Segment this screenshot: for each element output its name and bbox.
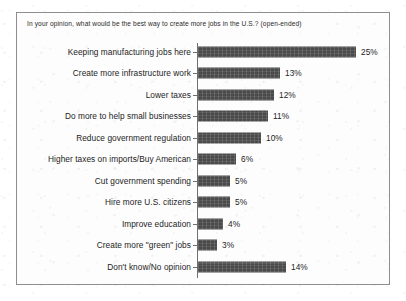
bar xyxy=(198,261,286,272)
bar-category-label: Don't know/No opinion xyxy=(107,262,191,272)
bar-category-label: Hire more U.S. citizens xyxy=(105,197,191,207)
bar-category-label: Create more "green" jobs xyxy=(97,240,191,250)
table-row: Reduce government regulation 10% xyxy=(17,127,391,149)
table-row: Lower taxes 12% xyxy=(17,84,391,106)
chart-frame: In your opinion, what would be the best … xyxy=(16,12,390,285)
table-row: Do more to help small businesses 11% xyxy=(17,106,391,128)
table-row: Higher taxes on imports/Buy American 6% xyxy=(17,149,391,171)
bar xyxy=(198,46,356,57)
bar xyxy=(198,132,261,143)
bar xyxy=(198,240,217,251)
bar xyxy=(198,89,274,100)
bar-value-label: 10% xyxy=(266,133,283,143)
bar-category-label: Lower taxes xyxy=(146,90,191,100)
bar xyxy=(198,218,223,229)
bar-category-label: Keeping manufacturing jobs here xyxy=(68,47,191,57)
bar-value-label: 13% xyxy=(285,68,302,78)
table-row: Don't know/No opinion 14% xyxy=(17,256,391,278)
bar-value-label: 4% xyxy=(228,219,240,229)
plot-area: Keeping manufacturing jobs here 25% Crea… xyxy=(17,41,391,281)
chart-question-title: In your opinion, what would be the best … xyxy=(27,20,302,27)
table-row: Create more "green" jobs 3% xyxy=(17,235,391,257)
table-row: Cut government spending 5% xyxy=(17,170,391,192)
table-row: Create more infrastructure work 13% xyxy=(17,63,391,85)
bar-value-label: 6% xyxy=(241,154,253,164)
bar xyxy=(198,68,280,79)
bar xyxy=(198,175,230,186)
bar xyxy=(198,154,236,165)
bar-category-label: Do more to help small businesses xyxy=(65,111,191,121)
table-row: Improve education 4% xyxy=(17,213,391,235)
bar-category-label: Create more infrastructure work xyxy=(73,68,191,78)
category-axis-line xyxy=(197,43,198,278)
bar-category-label: Improve education xyxy=(122,219,191,229)
bar-value-label: 5% xyxy=(235,197,247,207)
bar-value-label: 12% xyxy=(279,90,296,100)
bar-value-label: 3% xyxy=(222,240,234,250)
bar-value-label: 14% xyxy=(291,262,308,272)
bar-category-label: Higher taxes on imports/Buy American xyxy=(48,154,191,164)
bar xyxy=(198,197,230,208)
bar-category-label: Reduce government regulation xyxy=(76,133,191,143)
bar-value-label: 25% xyxy=(361,47,378,57)
bar-value-label: 5% xyxy=(235,176,247,186)
bar-value-label: 11% xyxy=(273,111,289,121)
table-row: Keeping manufacturing jobs here 25% xyxy=(17,41,391,63)
bar-category-label: Cut government spending xyxy=(95,176,191,186)
table-row: Hire more U.S. citizens 5% xyxy=(17,192,391,214)
bar xyxy=(198,111,268,122)
